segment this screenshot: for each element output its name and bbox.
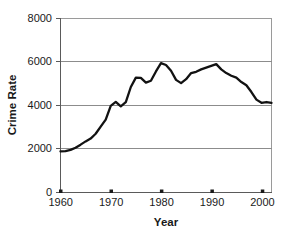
y-tick-label-6000: 6000 <box>28 55 52 67</box>
y-tick-label-4000: 4000 <box>28 99 52 111</box>
y-axis-title: Crime Rate <box>6 75 18 136</box>
x-tick-1990 <box>210 190 214 194</box>
y-tick-label-2000: 2000 <box>28 142 52 154</box>
crime-rate-series-line <box>61 63 272 151</box>
x-tick-1960 <box>59 190 63 194</box>
x-tick-label-1990: 1990 <box>200 196 224 208</box>
x-tick-label-1980: 1980 <box>149 196 173 208</box>
crime-rate-line-chart: 8000 6000 4000 2000 0 1960 1970 1980 199… <box>0 0 289 232</box>
x-tick-label-1970: 1970 <box>99 196 123 208</box>
chart-canvas: 8000 6000 4000 2000 0 1960 1970 1980 199… <box>0 0 289 232</box>
x-tick-2000 <box>261 190 265 194</box>
x-tick-label-1960: 1960 <box>48 196 72 208</box>
x-tick-label-2000: 2000 <box>250 196 274 208</box>
x-tick-1980 <box>160 190 164 194</box>
x-axis-title: Year <box>154 216 179 228</box>
y-tick-label-8000: 8000 <box>28 12 52 24</box>
x-tick-1970 <box>110 190 114 194</box>
